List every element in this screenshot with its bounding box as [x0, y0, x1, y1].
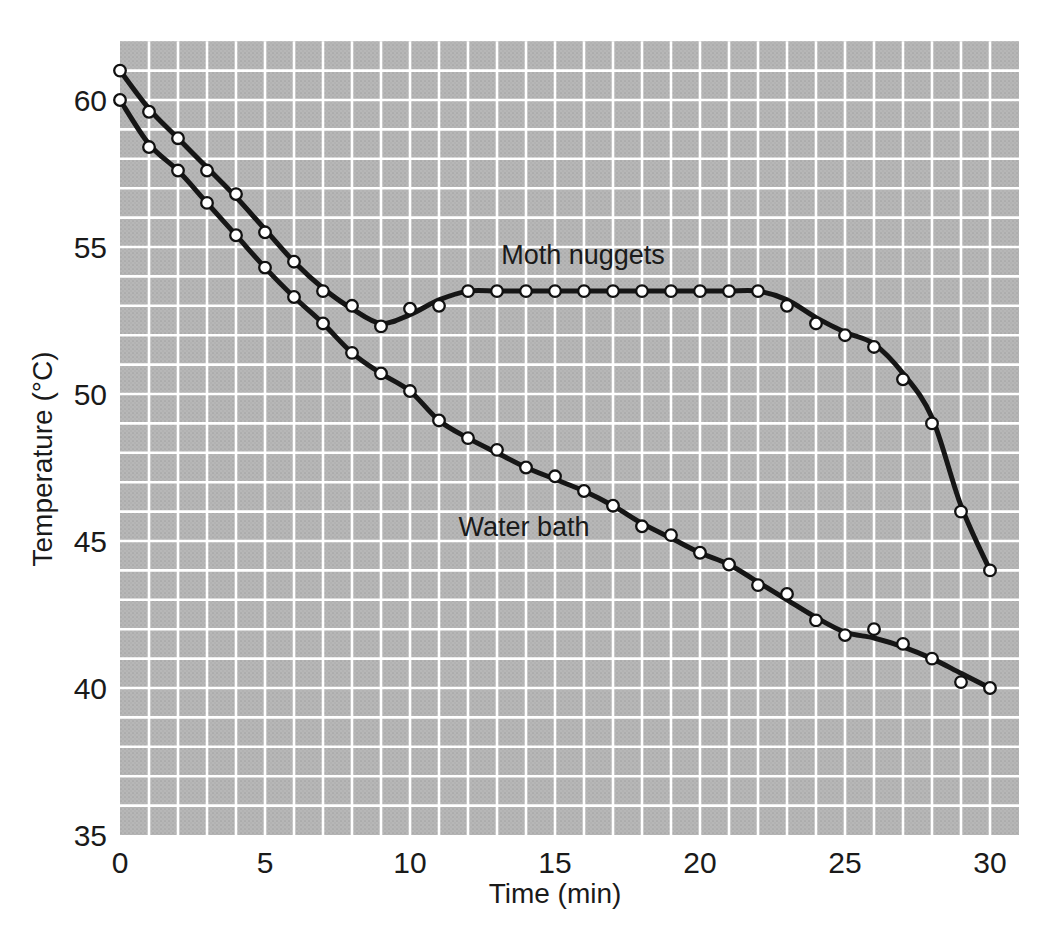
data-point-water-bath: [172, 165, 184, 177]
x-tick-label: 25: [828, 846, 861, 879]
data-point-water-bath: [839, 629, 851, 641]
data-point-moth-nuggets: [259, 227, 271, 239]
x-tick-label: 15: [538, 846, 571, 879]
cooling-curves-chart: 354045505560051015202530 Time (min) Temp…: [0, 0, 1051, 940]
data-point-moth-nuggets: [694, 285, 706, 297]
data-point-moth-nuggets: [462, 285, 474, 297]
y-tick-label: 40: [74, 672, 107, 705]
data-point-moth-nuggets: [578, 285, 590, 297]
data-point-moth-nuggets: [868, 341, 880, 353]
x-tick-label: 20: [683, 846, 716, 879]
data-point-water-bath: [868, 623, 880, 635]
data-point-water-bath: [317, 318, 329, 330]
data-point-moth-nuggets: [549, 285, 561, 297]
figure-page: 354045505560051015202530 Time (min) Temp…: [0, 0, 1051, 940]
data-point-moth-nuggets: [346, 300, 358, 312]
x-tick-label: 5: [257, 846, 274, 879]
data-point-water-bath: [752, 579, 764, 591]
x-tick-label: 30: [973, 846, 1006, 879]
data-point-water-bath: [636, 521, 648, 533]
data-point-moth-nuggets: [752, 285, 764, 297]
data-point-water-bath: [665, 529, 677, 541]
data-point-water-bath: [433, 415, 445, 427]
y-axis-title: Temperature (°C): [27, 351, 58, 566]
x-axis-title: Time (min): [489, 878, 622, 909]
data-point-moth-nuggets: [433, 300, 445, 312]
data-point-moth-nuggets: [172, 132, 184, 144]
data-point-water-bath: [114, 94, 126, 106]
data-point-moth-nuggets: [520, 285, 532, 297]
data-point-water-bath: [288, 291, 300, 303]
data-point-water-bath: [781, 588, 793, 600]
series-label-water-bath: Water bath: [458, 512, 589, 542]
data-point-water-bath: [491, 444, 503, 456]
data-point-water-bath: [723, 559, 735, 571]
data-point-moth-nuggets: [839, 329, 851, 341]
data-point-water-bath: [346, 347, 358, 359]
data-point-moth-nuggets: [607, 285, 619, 297]
data-point-water-bath: [607, 500, 619, 512]
data-point-moth-nuggets: [955, 506, 967, 518]
data-point-moth-nuggets: [781, 300, 793, 312]
data-point-moth-nuggets: [288, 256, 300, 268]
data-point-moth-nuggets: [636, 285, 648, 297]
data-point-water-bath: [694, 547, 706, 559]
data-point-water-bath: [984, 682, 996, 694]
data-point-water-bath: [404, 385, 416, 397]
data-point-water-bath: [549, 471, 561, 483]
data-point-water-bath: [578, 485, 590, 497]
data-point-moth-nuggets: [230, 188, 242, 200]
y-tick-label: 35: [74, 819, 107, 852]
data-point-moth-nuggets: [114, 65, 126, 77]
data-point-moth-nuggets: [201, 165, 213, 177]
data-point-water-bath: [375, 368, 387, 380]
x-tick-label: 0: [112, 846, 129, 879]
data-point-water-bath: [201, 197, 213, 209]
data-point-moth-nuggets: [375, 321, 387, 333]
data-point-moth-nuggets: [723, 285, 735, 297]
data-point-water-bath: [810, 615, 822, 627]
data-point-moth-nuggets: [665, 285, 677, 297]
data-point-water-bath: [897, 638, 909, 650]
y-tick-label: 55: [74, 231, 107, 264]
data-point-moth-nuggets: [926, 418, 938, 430]
data-point-water-bath: [955, 676, 967, 688]
data-point-water-bath: [259, 262, 271, 274]
data-point-water-bath: [143, 141, 155, 153]
data-point-water-bath: [926, 653, 938, 665]
data-point-moth-nuggets: [143, 106, 155, 118]
data-point-moth-nuggets: [897, 374, 909, 386]
data-point-moth-nuggets: [317, 285, 329, 297]
y-tick-label: 60: [74, 84, 107, 117]
data-point-water-bath: [520, 462, 532, 474]
data-point-moth-nuggets: [810, 318, 822, 330]
data-point-moth-nuggets: [984, 565, 996, 577]
data-point-moth-nuggets: [404, 303, 416, 315]
y-tick-label: 50: [74, 378, 107, 411]
data-point-water-bath: [462, 432, 474, 444]
x-tick-label: 10: [393, 846, 426, 879]
series-label-moth-nuggets: Moth nuggets: [501, 240, 665, 270]
plot-area: [120, 41, 1019, 835]
data-point-water-bath: [230, 229, 242, 241]
data-point-moth-nuggets: [491, 285, 503, 297]
y-tick-label: 45: [74, 525, 107, 558]
